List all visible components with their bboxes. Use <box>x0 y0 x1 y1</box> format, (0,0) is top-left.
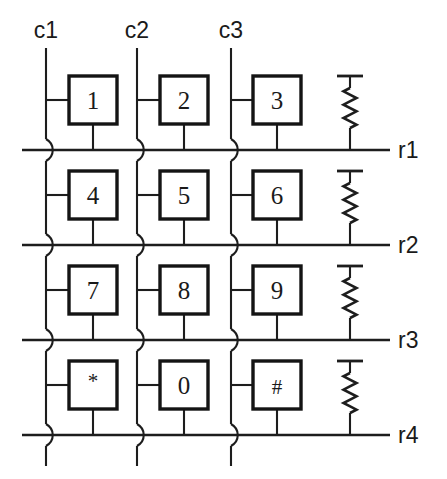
schematic-canvas: 123456789*0# c1c2c3r1r2r3r4 <box>0 0 447 479</box>
row-label-r4: r4 <box>398 422 419 448</box>
resistor-body-rp3 <box>344 278 357 318</box>
switch-label-3: 3 <box>271 87 284 114</box>
resistor-body-rp4 <box>344 373 357 413</box>
resistor-body-rp1 <box>344 88 357 128</box>
switch-label-1: 1 <box>87 87 100 114</box>
switch-label-8: 8 <box>178 277 191 304</box>
switch-label-5: 5 <box>178 182 191 209</box>
switch-label-6: 6 <box>271 182 284 209</box>
switch-label-*: * <box>88 369 99 393</box>
switch-label-2: 2 <box>178 87 191 114</box>
resistor-group <box>337 76 363 435</box>
column-label-c2: c2 <box>125 17 149 43</box>
resistor-body-rp2 <box>344 183 357 223</box>
keypad-matrix-diagram: 123456789*0# c1c2c3r1r2r3r4 <box>0 0 447 479</box>
switch-label-4: 4 <box>87 182 100 209</box>
row-label-r1: r1 <box>398 137 418 163</box>
switch-group: 123456789*0# <box>46 76 301 435</box>
switch-label-7: 7 <box>87 277 100 304</box>
switch-label-0: 0 <box>178 372 191 399</box>
column-label-c3: c3 <box>219 17 243 43</box>
row-label-r2: r2 <box>398 232 418 258</box>
column-label-c1: c1 <box>34 17 58 43</box>
switch-label-#: # <box>272 375 283 399</box>
row-label-r3: r3 <box>398 327 418 353</box>
switch-label-9: 9 <box>271 277 284 304</box>
